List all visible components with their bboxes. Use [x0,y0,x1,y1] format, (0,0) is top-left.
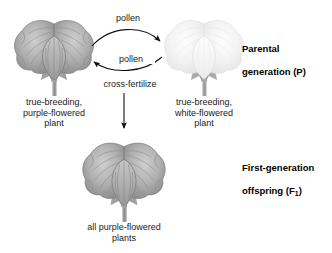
label-pollen-top: pollen [104,13,152,23]
f1-subscript: 1 [295,190,299,197]
f1-line-2: offspring (F1) [242,185,332,198]
label-parental-generation: Parental generation (P) [242,31,330,89]
label-f1-generation: First-generation offspring (F1) [242,150,332,209]
label-cross-fertilize: cross-fertilize [88,79,172,89]
arrow-curved-right-icon [92,30,160,46]
f1-offspring-text: offspring (F [242,185,295,196]
label-pollen-bottom: pollen [107,54,155,64]
genetics-cross-diagram: true-breeding, purple-flowered plant [0,0,332,253]
parental-line-1: Parental [242,43,330,55]
f1-line-1: First-generation [242,162,332,174]
parental-line-2: generation (P) [242,66,330,78]
f1-paren-close: ) [299,185,302,196]
